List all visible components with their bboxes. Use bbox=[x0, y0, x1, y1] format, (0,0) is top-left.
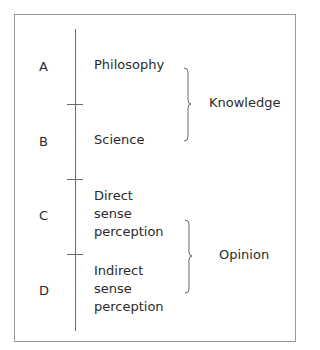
segment-label-d: Indirect sense perception bbox=[94, 262, 164, 316]
group-label-knowledge: Knowledge bbox=[209, 94, 280, 112]
divided-line bbox=[75, 29, 76, 331]
tick-cd bbox=[67, 254, 83, 255]
segment-letter-c: C bbox=[39, 207, 48, 225]
segment-letter-d: D bbox=[39, 282, 49, 300]
brace-opinion-icon bbox=[183, 219, 197, 295]
tick-ab bbox=[67, 104, 83, 105]
group-label-opinion: Opinion bbox=[219, 246, 269, 264]
segment-label-b: Science bbox=[94, 131, 144, 149]
segment-label-c: Direct sense perception bbox=[94, 187, 164, 241]
segment-letter-b: B bbox=[39, 133, 48, 151]
segment-letter-a: A bbox=[39, 58, 48, 76]
tick-bc bbox=[67, 179, 83, 180]
segment-label-a: Philosophy bbox=[94, 56, 164, 74]
brace-knowledge-icon bbox=[182, 67, 196, 143]
